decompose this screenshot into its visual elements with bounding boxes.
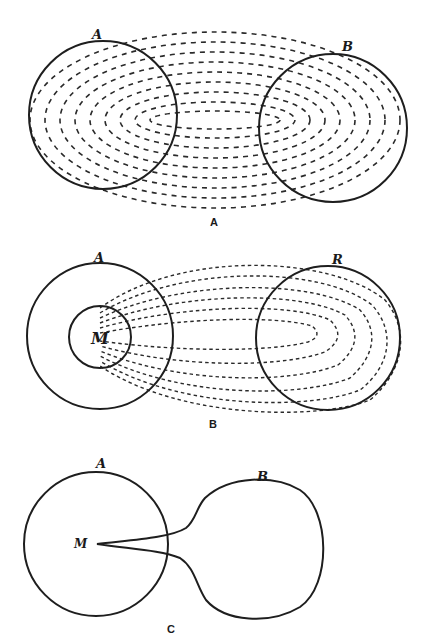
circle-r <box>256 266 400 410</box>
circle-a <box>29 41 177 189</box>
caption-a: A <box>210 216 218 228</box>
figure-a: A B A <box>29 27 407 228</box>
label-a: A <box>94 456 106 471</box>
label-a: A <box>90 27 102 42</box>
caption-c: C <box>167 623 175 635</box>
field-lines-a <box>30 32 400 208</box>
circle-a <box>24 472 168 616</box>
label-m: M <box>90 329 110 348</box>
field-lines-b <box>100 265 401 412</box>
label-b: B <box>256 469 268 484</box>
figure-c: A B M C <box>24 456 323 635</box>
figure-canvas: A B A A R M B A B M C <box>0 0 421 635</box>
label-b: B <box>341 39 353 54</box>
bulb-b <box>97 480 323 619</box>
figure-b: A R M B <box>27 250 401 430</box>
label-a: A <box>92 250 104 265</box>
caption-b: B <box>209 418 217 430</box>
circle-b <box>259 54 407 202</box>
label-r: R <box>331 252 343 267</box>
label-m: M <box>73 537 88 551</box>
